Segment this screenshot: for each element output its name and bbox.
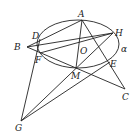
label-H: H	[114, 28, 123, 38]
label-M: M	[70, 71, 81, 81]
label-F: F	[34, 55, 42, 65]
segment-GH	[21, 33, 113, 121]
label-E: E	[109, 59, 117, 69]
segment-DG	[21, 39, 40, 121]
segment-GE	[21, 62, 110, 121]
geometry-diagram: A D B H O α F E M C G	[0, 0, 140, 138]
segment-AM	[76, 20, 82, 68]
label-A: A	[77, 9, 85, 19]
label-alpha: α	[121, 44, 127, 54]
label-O: O	[80, 46, 88, 56]
label-G: G	[15, 123, 22, 133]
label-D: D	[31, 31, 39, 41]
label-B: B	[13, 42, 21, 52]
label-C: C	[122, 92, 129, 102]
plane-alpha-ellipse	[37, 20, 119, 68]
